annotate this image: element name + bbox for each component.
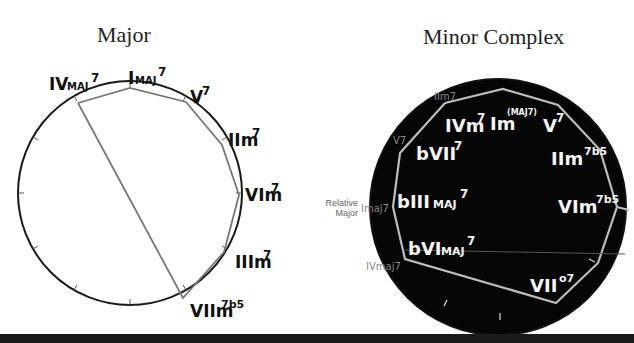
- label-vim7b5: VIm: [558, 196, 597, 217]
- relative-major-annotation: Relative Major: [325, 198, 358, 218]
- label-bvimaj7: bVI: [408, 238, 442, 259]
- outer-label-imaj7: Imaj7: [361, 203, 389, 214]
- svg-text:MAJ: MAJ: [433, 198, 457, 211]
- svg-text:7: 7: [271, 181, 279, 195]
- outer-label-iim7: IIm7: [434, 91, 456, 102]
- outer-label-ivmaj7: IVmaj7: [366, 261, 401, 272]
- outer-label-v7: V7: [393, 135, 406, 146]
- svg-text:7b5: 7b5: [584, 145, 607, 158]
- svg-text:7: 7: [263, 248, 271, 262]
- svg-text:7: 7: [158, 65, 166, 79]
- svg-text:Relative: Relative: [325, 198, 358, 208]
- svg-text:7: 7: [467, 234, 475, 248]
- svg-text:(MAJ7): (MAJ7): [507, 108, 537, 117]
- svg-text:Major: Major: [335, 208, 358, 218]
- svg-text:7b5: 7b5: [596, 193, 619, 206]
- svg-text:7: 7: [252, 126, 260, 140]
- label-biiimaj7: bIII: [397, 191, 430, 212]
- svg-text:7b5: 7b5: [221, 298, 244, 311]
- svg-text:7: 7: [454, 139, 462, 153]
- svg-text:MAJ: MAJ: [135, 75, 156, 86]
- svg-text:o7: o7: [559, 272, 574, 285]
- chord-circle-diagrams: IV MAJ 7 I MAJ 7 V 7 IIm 7 VIm 7 IIIm 7 …: [0, 0, 634, 343]
- svg-text:7: 7: [202, 84, 210, 98]
- label-v7-minor: V: [543, 115, 557, 136]
- svg-text:7: 7: [460, 187, 468, 201]
- svg-text:7: 7: [91, 71, 99, 85]
- label-viio7: VII: [530, 275, 557, 296]
- label-bvii7: bVII: [416, 143, 456, 164]
- label-imaj7: I: [128, 68, 134, 88]
- svg-text:MAJ: MAJ: [67, 81, 88, 92]
- svg-text:7: 7: [477, 111, 485, 125]
- bottom-divider-bar: [0, 334, 634, 343]
- svg-text:7: 7: [556, 111, 564, 125]
- svg-text:MAJ: MAJ: [441, 245, 465, 258]
- major-circle: [18, 81, 242, 305]
- label-iim7b5: IIm: [551, 148, 583, 169]
